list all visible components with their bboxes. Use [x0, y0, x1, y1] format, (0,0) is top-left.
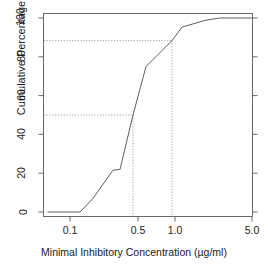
x-axis-ticks: [70, 217, 252, 222]
x-tick-label-5-0: 5.0: [236, 224, 268, 236]
mic50-reference-line: [44, 115, 133, 216]
x-tick-label-1-0: 1.0: [159, 224, 191, 236]
x-tick-label-0-1: 0.1: [54, 224, 86, 236]
y-tick-label-0: 0: [17, 209, 29, 215]
y-axis-title: Cumulative Percentage: [15, 0, 27, 143]
x-tick-label-0-5: 0.5: [122, 224, 154, 236]
y-tick-label-20: 20: [15, 167, 27, 179]
right-axis-ticks: [253, 18, 258, 212]
y-axis-ticks: [39, 18, 44, 212]
x-axis-title: Minimal Inhibitory Concentration (µg/ml): [0, 246, 268, 258]
mic90-reference-line: [44, 41, 172, 216]
chart-figure: 0 20 40 60 80 100 0.1 0.5 1.0 5.0 Cumula…: [0, 0, 268, 268]
